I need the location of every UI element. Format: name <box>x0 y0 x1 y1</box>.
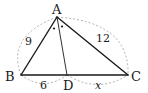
triangle-diagram: A B C D 9 12 6 x <box>0 0 148 93</box>
label-d: D <box>63 78 73 93</box>
length-ab: 9 <box>25 35 32 48</box>
triangle-sides <box>21 17 128 75</box>
length-dc: x <box>95 79 102 92</box>
angle-marks <box>53 25 63 29</box>
length-ac: 12 <box>96 32 110 45</box>
label-b: B <box>5 69 15 84</box>
angle-dot-left <box>53 27 55 29</box>
label-c: C <box>131 69 141 84</box>
label-a: A <box>51 2 62 17</box>
length-bd: 6 <box>40 79 47 92</box>
side-ac <box>57 17 128 75</box>
angle-dot-right <box>61 25 63 27</box>
